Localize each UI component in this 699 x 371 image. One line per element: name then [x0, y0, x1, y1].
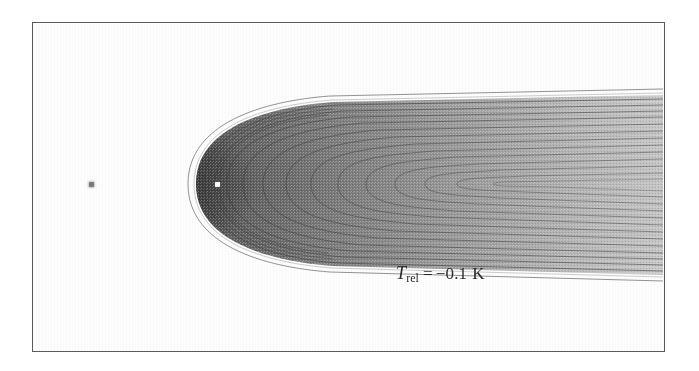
equals-sign: =: [423, 264, 433, 283]
figure-root: Trel=−0.1K: [0, 0, 699, 371]
upstream-reference-dot: [89, 182, 94, 187]
temperature-symbol: T: [396, 263, 406, 283]
temperature-subscript: rel: [406, 271, 419, 285]
plot-frame: Trel=−0.1K: [32, 22, 665, 352]
plume-origin-marker: [215, 182, 220, 187]
contour-value: −0.1: [436, 264, 468, 283]
scan-grain-overlay: [33, 23, 663, 350]
contour-value-label: Trel=−0.1K: [396, 263, 485, 286]
contour-plume-graphic: [33, 23, 663, 350]
temperature-unit: K: [472, 264, 484, 283]
